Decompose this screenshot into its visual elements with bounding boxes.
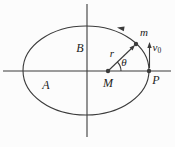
region-label-a: A xyxy=(41,78,50,92)
central-mass-label: M xyxy=(102,76,114,90)
central-mass-dot xyxy=(106,69,110,73)
angle-label: θ xyxy=(121,56,127,68)
orbit-diagram: A B M P m r θ v0 xyxy=(0,0,175,147)
radius-label: r xyxy=(110,47,115,59)
right-vertex-dot xyxy=(147,69,151,73)
right-vertex-label: P xyxy=(151,73,160,87)
velocity-label: v0 xyxy=(153,41,162,55)
satellite-label: m xyxy=(140,26,148,38)
orbit-diagram-canvas: A B M P m r θ v0 xyxy=(0,0,175,147)
velocity-vector-arrowhead-icon xyxy=(147,42,151,48)
orbit-direction-arrowhead-icon xyxy=(117,27,125,32)
region-label-b: B xyxy=(76,41,84,55)
velocity-label-subscript: 0 xyxy=(157,46,161,55)
satellite-dot xyxy=(134,42,138,46)
